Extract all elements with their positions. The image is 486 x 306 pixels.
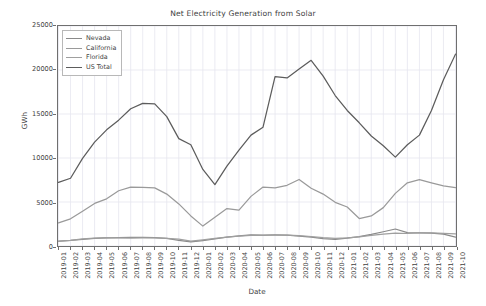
chart-title: Net Electricity Generation from Solar [0, 9, 486, 18]
x-tick-label: 2020-02 [217, 252, 225, 279]
x-tick-mark [58, 247, 59, 250]
x-tick-mark [191, 247, 192, 250]
x-tick-label: 2020-06 [266, 252, 274, 279]
y-tick-mark [53, 203, 56, 204]
x-tick-mark [360, 247, 361, 250]
x-tick-mark [70, 247, 71, 250]
legend-item-florida[interactable]: Florida [66, 53, 116, 63]
x-tick-label: 2021-01 [350, 252, 358, 279]
x-tick-mark [324, 247, 325, 250]
x-tick-mark [396, 247, 397, 250]
y-tick-mark [53, 247, 56, 248]
x-tick-mark [215, 247, 216, 250]
x-tick-label: 2020-11 [326, 252, 334, 279]
x-tick-label: 2020-03 [229, 252, 237, 279]
x-tick-mark [408, 247, 409, 250]
legend-label: California [86, 44, 116, 53]
x-tick-mark [82, 247, 83, 250]
x-tick-mark [166, 247, 167, 250]
legend-item-california[interactable]: California [66, 44, 116, 54]
x-tick-mark [372, 247, 373, 250]
legend-swatch-florida [66, 57, 82, 58]
y-tick-label: 10000 [7, 154, 53, 162]
y-tick-label: 20000 [7, 65, 53, 73]
x-tick-label: 2021-02 [362, 252, 370, 279]
x-tick-mark [287, 247, 288, 250]
x-tick-mark [251, 247, 252, 250]
y-axis-ticks: 0500010000150002000025000 [0, 25, 53, 247]
x-tick-label: 2020-05 [254, 252, 262, 279]
x-tick-mark [444, 247, 445, 250]
x-tick-mark [227, 247, 228, 250]
x-tick-mark [299, 247, 300, 250]
x-tick-label: 2019-11 [181, 252, 189, 279]
legend-swatch-us-total [66, 67, 82, 68]
x-axis-label: Date [57, 287, 457, 296]
chart-figure: Net Electricity Generation from Solar GW… [0, 0, 486, 306]
x-tick-mark [203, 247, 204, 250]
x-tick-mark [311, 247, 312, 250]
legend-label: Florida [86, 53, 108, 62]
x-tick-mark [384, 247, 385, 250]
x-tick-label: 2019-09 [157, 252, 165, 279]
x-tick-mark [178, 247, 179, 250]
x-tick-label: 2021-03 [374, 252, 382, 279]
x-tick-label: 2019-10 [169, 252, 177, 279]
x-tick-mark [106, 247, 107, 250]
x-tick-mark [457, 247, 458, 250]
x-tick-label: 2019-01 [60, 252, 68, 279]
x-tick-label: 2019-02 [72, 252, 80, 279]
legend-item-nevada[interactable]: Nevada [66, 34, 116, 44]
x-tick-label: 2019-03 [84, 252, 92, 279]
plot-area: NevadaCaliforniaFloridaUS Total [57, 25, 457, 247]
y-tick-label: 25000 [7, 21, 53, 29]
x-tick-mark [336, 247, 337, 250]
legend-label: US Total [86, 63, 112, 72]
x-tick-label: 2020-08 [290, 252, 298, 279]
y-tick-mark [53, 69, 56, 70]
x-tick-label: 2021-05 [399, 252, 407, 279]
y-tick-mark [53, 158, 56, 159]
x-tick-label: 2020-04 [241, 252, 249, 279]
x-tick-label: 2021-08 [435, 252, 443, 279]
x-tick-mark [130, 247, 131, 250]
x-tick-label: 2021-06 [411, 252, 419, 279]
legend-item-us-total[interactable]: US Total [66, 63, 116, 73]
x-tick-label: 2019-08 [145, 252, 153, 279]
x-tick-label: 2019-04 [96, 252, 104, 279]
x-tick-mark [142, 247, 143, 250]
x-tick-label: 2021-04 [387, 252, 395, 279]
x-tick-mark [118, 247, 119, 250]
x-tick-label: 2020-12 [338, 252, 346, 279]
x-tick-label: 2020-07 [278, 252, 286, 279]
x-tick-label: 2021-10 [459, 252, 467, 279]
x-tick-label: 2021-07 [423, 252, 431, 279]
x-tick-mark [432, 247, 433, 250]
legend-swatch-california [66, 48, 82, 49]
x-tick-mark [263, 247, 264, 250]
legend-swatch-nevada [66, 38, 82, 39]
x-tick-mark [154, 247, 155, 250]
x-tick-mark [94, 247, 95, 250]
x-tick-label: 2020-10 [314, 252, 322, 279]
x-tick-mark [348, 247, 349, 250]
chart-legend[interactable]: NevadaCaliforniaFloridaUS Total [62, 30, 122, 76]
x-tick-label: 2019-12 [193, 252, 201, 279]
y-tick-label: 15000 [7, 110, 53, 118]
x-tick-label: 2019-06 [121, 252, 129, 279]
x-tick-label: 2020-09 [302, 252, 310, 279]
x-tick-label: 2021-09 [447, 252, 455, 279]
legend-label: Nevada [86, 34, 110, 43]
y-tick-mark [53, 25, 56, 26]
x-tick-mark [420, 247, 421, 250]
y-tick-label: 0 [7, 243, 53, 251]
x-tick-mark [239, 247, 240, 250]
x-tick-label: 2019-05 [108, 252, 116, 279]
y-tick-label: 5000 [7, 199, 53, 207]
x-tick-mark [275, 247, 276, 250]
y-tick-mark [53, 114, 56, 115]
x-tick-label: 2020-01 [205, 252, 213, 279]
x-tick-label: 2019-07 [133, 252, 141, 279]
